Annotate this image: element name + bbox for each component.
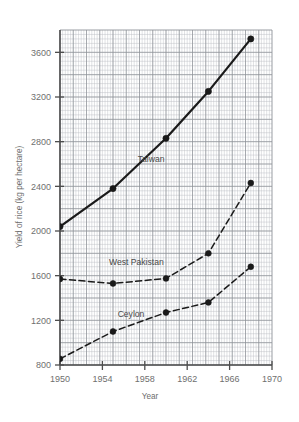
x-axis-title: Year [142,392,159,401]
chart-background [0,0,299,422]
data-point-ceylon-1968 [248,264,254,270]
rice-yield-line-chart: 8001200160020002400280032003600 19501954… [0,0,299,422]
data-point-west-pakistan-1964 [206,250,212,256]
y-tick-label: 800 [36,360,51,370]
series-label-west-pakistan: West Pakistan [109,257,164,267]
series-label-ceylon: Ceylon [118,309,145,319]
y-tick-label: 2000 [31,226,51,236]
x-tick-label: 1950 [50,374,70,384]
series-label-taiwan: Taiwan [138,154,165,164]
data-point-west-pakistan-1968 [248,180,254,186]
y-tick-label: 2400 [31,182,51,192]
y-tick-label: 2800 [31,137,51,147]
y-tick-label: 1200 [31,316,51,326]
data-point-west-pakistan-1960 [163,276,169,282]
x-tick-label: 1958 [135,374,155,384]
data-point-ceylon-1964 [206,300,212,306]
data-point-taiwan-1964 [205,88,211,94]
x-tick-label: 1970 [262,374,282,384]
y-axis-title: Yield of rice (kg per hectare) [15,145,24,248]
data-point-taiwan-1955 [110,185,116,191]
data-point-taiwan-1968 [248,36,254,42]
x-tick-label: 1954 [92,374,112,384]
x-tick-label: 1966 [220,374,240,384]
y-tick-label: 3200 [31,92,51,102]
y-tick-label: 3600 [31,48,51,58]
data-point-ceylon-1955 [110,329,116,335]
x-tick-label: 1962 [177,374,197,384]
data-point-taiwan-1960 [163,135,169,141]
y-tick-label: 1600 [31,271,51,281]
data-point-ceylon-1960 [163,310,169,316]
chart-canvas: 8001200160020002400280032003600 19501954… [0,0,299,422]
data-point-west-pakistan-1955 [110,281,116,287]
